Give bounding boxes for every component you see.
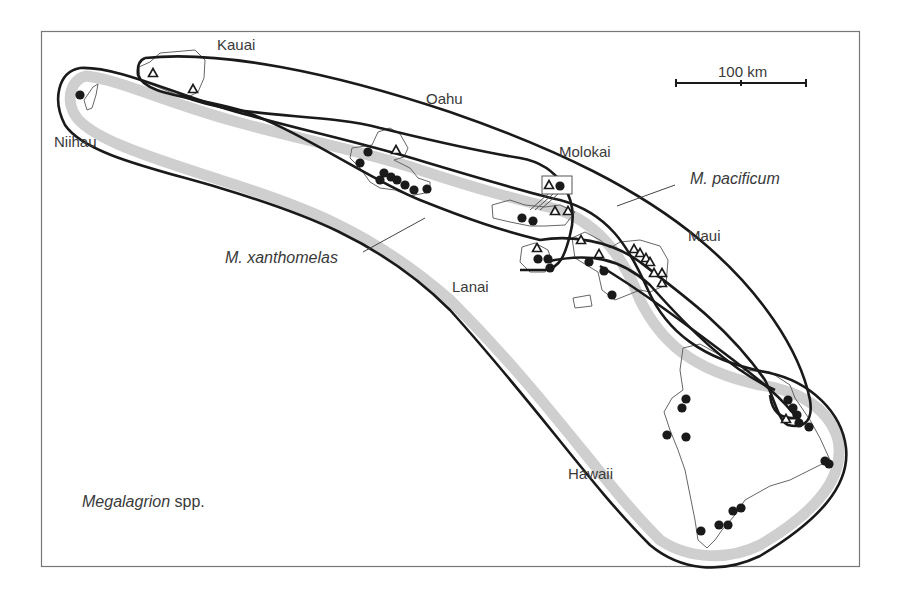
- circle-marker: [804, 422, 813, 431]
- circle-marker: [794, 418, 803, 427]
- circle-marker: [696, 526, 705, 535]
- circle-marker: [728, 506, 737, 515]
- circle-marker: [528, 216, 537, 225]
- circle-marker: [723, 520, 732, 529]
- label-m-xanthomelas: M. xanthomelas: [225, 249, 338, 266]
- figure-title: Megalagrion spp.: [82, 493, 205, 510]
- circle-marker: [824, 459, 833, 468]
- circle-marker: [681, 394, 690, 403]
- circle-marker: [714, 520, 723, 529]
- circle-marker: [584, 257, 593, 266]
- scale-bar-label: 100 km: [718, 63, 767, 80]
- circle-marker: [783, 395, 792, 404]
- circle-marker: [363, 147, 372, 156]
- label-niihau: Niihau: [54, 133, 97, 150]
- title-genus: Megalagrion: [82, 493, 170, 510]
- circle-marker: [533, 254, 542, 263]
- circle-marker: [543, 254, 552, 263]
- circle-marker: [75, 90, 84, 99]
- label-kauai: Kauai: [217, 36, 255, 53]
- title-suffix: spp.: [170, 493, 205, 510]
- circle-marker: [375, 175, 384, 184]
- label-maui: Maui: [688, 227, 721, 244]
- circle-marker: [681, 432, 690, 441]
- circle-marker: [792, 410, 801, 419]
- circle-marker: [422, 184, 431, 193]
- circle-marker: [607, 290, 616, 299]
- label-oahu: Oahu: [426, 90, 463, 107]
- circle-marker: [599, 266, 608, 275]
- circle-marker: [545, 263, 554, 272]
- circle-marker: [736, 503, 745, 512]
- label-molokai: Molokai: [559, 143, 611, 160]
- circle-marker: [392, 175, 401, 184]
- circle-marker: [662, 430, 671, 439]
- label-m-pacificum: M. pacificum: [690, 170, 780, 187]
- distribution-map: 100 km Kauai Niihau Oahu Molokai Maui La…: [0, 0, 898, 599]
- circle-marker: [517, 213, 526, 222]
- circle-marker: [355, 158, 364, 167]
- label-hawaii: Hawaii: [568, 465, 613, 482]
- circle-marker: [400, 180, 409, 189]
- label-lanai: Lanai: [452, 278, 489, 295]
- circle-marker: [677, 403, 686, 412]
- circle-marker: [409, 185, 418, 194]
- circle-marker: [555, 181, 564, 190]
